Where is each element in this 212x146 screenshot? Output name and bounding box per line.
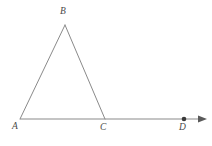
ray-arrowhead-icon: [198, 115, 207, 122]
vertex-label-a: A: [12, 122, 18, 132]
vertex-label-d: D: [179, 123, 186, 133]
geometry-figure: A B C D: [0, 0, 212, 146]
vertex-label-c: C: [100, 123, 106, 133]
segment-ab-line: [20, 25, 65, 119]
vertex-label-b: B: [60, 7, 66, 17]
segment-bc-line: [65, 25, 105, 119]
point-d-dot-marker: [182, 117, 187, 122]
